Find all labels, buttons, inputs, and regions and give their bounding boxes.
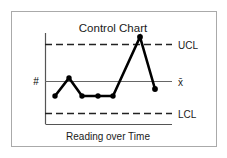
chart-title: Control Chart (79, 22, 148, 34)
x-axis-label: Reading over Time (66, 131, 150, 142)
data-point (95, 93, 100, 98)
ucl-label: UCL (178, 40, 198, 51)
center-line-label: x̄ (178, 77, 183, 88)
control-chart-svg: Control Chart # UCL x̄ LCL Reading ov (0, 0, 227, 158)
data-point (110, 93, 115, 98)
data-point (137, 34, 143, 40)
control-chart-figure: Control Chart # UCL x̄ LCL Reading ov (0, 0, 227, 158)
data-point (52, 93, 57, 98)
y-axis-label: # (33, 76, 39, 87)
data-point (79, 93, 84, 98)
lcl-label: LCL (178, 109, 197, 120)
data-point (66, 75, 71, 80)
data-point (152, 86, 158, 92)
